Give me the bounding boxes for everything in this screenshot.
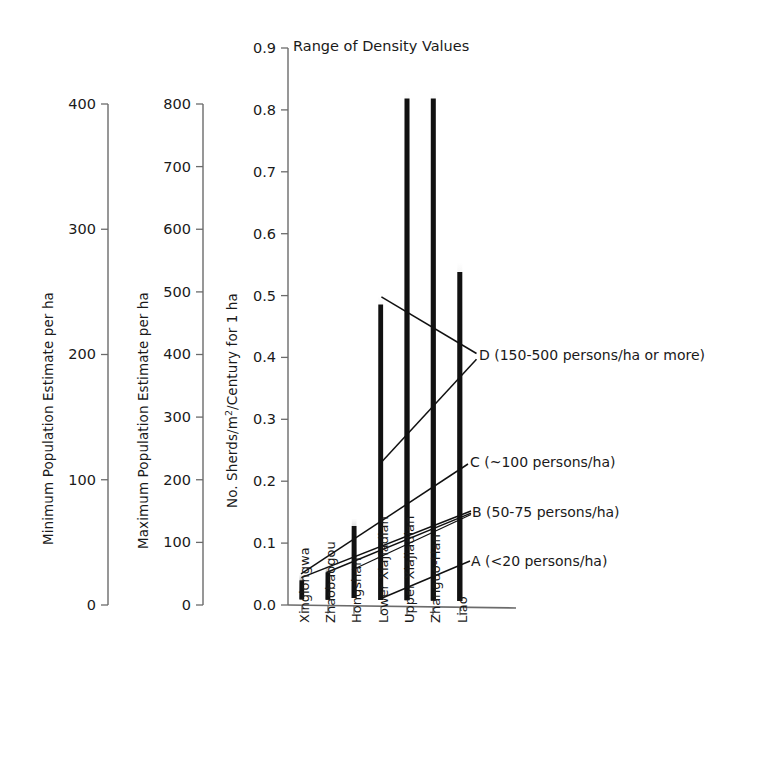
- reference-label-d: D (150-500 persons/ha or more): [479, 347, 705, 363]
- axis-sherd-density: [281, 48, 288, 605]
- tick-label-max-pop-500: 500: [141, 284, 191, 300]
- tick-label-max-pop-300: 300: [141, 409, 191, 425]
- axis-title-min-population: Minimum Population Estimate per ha: [40, 292, 56, 545]
- tick-label-min-pop-300: 300: [46, 221, 96, 237]
- reference-label-c: C (~100 persons/ha): [470, 454, 616, 470]
- range-bar-zhanguo-han[interactable]: [431, 89, 436, 601]
- tick-label-min-pop-200: 200: [46, 346, 96, 362]
- tick-label-sherd-0-3: 0.3: [228, 411, 276, 427]
- chart-figure: Minimum Population Estimate per ha Maxim…: [0, 0, 760, 783]
- tick-label-sherd-0-0: 0.0: [228, 597, 276, 613]
- chart-canvas: [0, 0, 760, 783]
- tick-label-sherd-0-4: 0.4: [228, 349, 276, 365]
- tick-label-max-pop-200: 200: [141, 472, 191, 488]
- category-label-lower-xiajiadian: Lower Xiajiadian: [376, 516, 391, 623]
- tick-label-max-pop-600: 600: [141, 221, 191, 237]
- tick-label-sherd-0-5: 0.5: [228, 288, 276, 304]
- tick-label-max-pop-100: 100: [141, 534, 191, 550]
- category-label-upper-xiajiadian: Upper Xiajiadian: [402, 516, 417, 623]
- plot-title: Range of Density Values: [293, 38, 469, 54]
- tick-label-min-pop-400: 400: [46, 96, 96, 112]
- tick-label-sherd-0-2: 0.2: [228, 473, 276, 489]
- range-bar-liao[interactable]: [457, 262, 462, 601]
- tick-label-min-pop-100: 100: [46, 472, 96, 488]
- category-label-liao: Liao: [455, 596, 470, 623]
- axis-max-population: [196, 104, 203, 605]
- category-label-zhanguo-han: Zhanguo-Han: [428, 534, 443, 623]
- category-label-hongshan: Hongshan: [349, 558, 364, 623]
- tick-label-max-pop-800: 800: [141, 96, 191, 112]
- tick-label-sherd-0-6: 0.6: [228, 226, 276, 242]
- category-label-xinglongwa: Xinglongwa: [297, 547, 312, 623]
- tick-label-max-pop-700: 700: [141, 159, 191, 175]
- tick-label-max-pop-400: 400: [141, 346, 191, 362]
- tick-label-sherd-0-8: 0.8: [228, 102, 276, 118]
- axis-min-population: [101, 104, 108, 605]
- tick-label-max-pop-0: 0: [141, 597, 191, 613]
- reference-line-a: [381, 561, 470, 599]
- reference-label-b: B (50-75 persons/ha): [472, 504, 620, 520]
- tick-label-sherd-0-7: 0.7: [228, 164, 276, 180]
- tick-label-min-pop-0: 0: [46, 597, 96, 613]
- category-label-zhaobaogou: Zhaobaogou: [323, 541, 338, 623]
- reference-label-a: A (<20 persons/ha): [471, 553, 607, 569]
- tick-label-sherd-0-1: 0.1: [228, 535, 276, 551]
- tick-label-sherd-0-9: 0.9: [228, 40, 276, 56]
